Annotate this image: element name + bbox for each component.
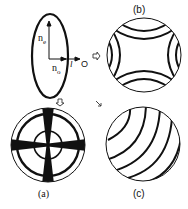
panel-b-circle (107, 18, 181, 92)
ne-subscript: e (43, 38, 46, 46)
light-direction-label: l (70, 60, 73, 69)
ne-arrowhead-icon (47, 21, 51, 26)
arrow-down-icon (56, 99, 64, 106)
indicatrix-ellipse (32, 14, 68, 98)
panel-a-figure (9, 106, 87, 184)
indicatrix (32, 14, 80, 98)
isogyre-cross (9, 106, 87, 184)
arrow-right-icon (93, 52, 100, 60)
diagram-canvas (0, 0, 188, 209)
panel-a-caption: (a) (38, 189, 49, 199)
panel-c-caption: (c) (133, 189, 145, 199)
ne-label: ne (38, 33, 46, 46)
observer-label: O (81, 60, 88, 69)
panel-b-caption: (b) (133, 5, 145, 15)
no-subscript: o (57, 68, 61, 76)
panel-b-figure (104, 18, 184, 92)
arrow-diagonal-icon (96, 101, 101, 106)
no-label: no (52, 63, 61, 76)
light-arrowhead-icon (75, 57, 80, 61)
panel-c-figure (106, 104, 182, 186)
